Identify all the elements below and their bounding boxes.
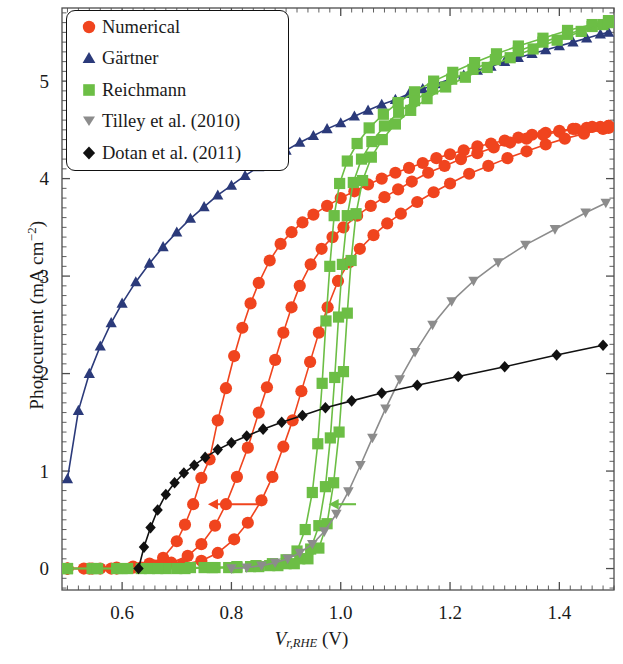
x-axis-label: Vr,RHE (V): [0, 628, 623, 651]
square-marker: [333, 426, 344, 437]
circle-marker: [316, 243, 328, 255]
diamond-marker: [297, 410, 307, 422]
figure-photocurrent-vs-voltage: 0.60.81.01.21.4012345 Photocurrent (mA c…: [0, 0, 623, 664]
diamond-marker: [412, 379, 422, 391]
circle-marker: [275, 238, 287, 250]
square-marker: [338, 366, 349, 377]
triangle-down-marker: [520, 241, 531, 251]
legend-label: Gärtner: [102, 49, 159, 68]
y-tick-label: 0: [40, 558, 50, 579]
square-marker: [390, 118, 401, 129]
square-marker: [603, 17, 614, 28]
square-marker: [350, 208, 361, 219]
triangle-up-marker: [212, 189, 223, 199]
circle-marker: [540, 138, 552, 150]
circle-marker: [504, 136, 516, 148]
circle-marker: [236, 322, 248, 334]
circle-marker: [378, 191, 390, 203]
square-marker: [352, 138, 363, 149]
circle-marker: [209, 520, 221, 532]
triangle-up-marker: [308, 130, 319, 140]
square-marker: [379, 120, 390, 131]
square-marker: [289, 558, 300, 569]
triangle-up-marker: [226, 180, 237, 190]
circle-marker: [228, 350, 240, 362]
square-marker: [179, 563, 190, 574]
circle-marker: [244, 297, 256, 309]
square-marker: [377, 134, 388, 145]
triangle-up-marker: [294, 137, 305, 147]
circle-marker: [187, 498, 199, 510]
square-marker: [393, 97, 404, 108]
triangle-down-marker: [493, 258, 504, 268]
square-marker: [421, 93, 432, 104]
legend-item-tilley: Tilley et al. (2010): [67, 106, 288, 138]
circle-marker: [501, 152, 513, 164]
circle-marker: [277, 441, 289, 453]
circle-marker: [354, 243, 366, 255]
circle-marker: [242, 442, 254, 454]
square-marker: [62, 563, 73, 574]
circle-marker: [389, 167, 401, 179]
square-marker: [357, 175, 368, 186]
circle-marker: [253, 406, 265, 418]
circle-marker: [285, 301, 297, 313]
circle-marker: [422, 167, 434, 179]
diamond-marker: [189, 459, 199, 471]
diamond-marker: [377, 387, 387, 399]
circle-marker: [261, 381, 273, 393]
circle-marker: [520, 133, 532, 145]
triangle-down-marker: [355, 461, 366, 471]
diamond-marker: [152, 504, 162, 516]
y-axis-label: Photocurrent (mA cm−2): [24, 185, 48, 445]
triangle-up-marker: [117, 298, 128, 308]
y-tick-label: 1: [40, 461, 50, 482]
x-tick-label: 1.4: [547, 602, 571, 623]
triangle-up-marker-icon: [76, 48, 102, 68]
circle-marker: [428, 186, 440, 198]
circle-marker: [559, 133, 571, 145]
square-marker: [366, 152, 377, 163]
square-marker: [528, 43, 539, 54]
circle-marker: [367, 229, 379, 241]
triangle-up-marker: [73, 405, 84, 415]
square-marker: [302, 553, 313, 564]
triangle-up-marker: [335, 117, 346, 127]
circle-marker: [455, 153, 467, 165]
square-marker: [346, 255, 357, 266]
circle-marker: [313, 327, 325, 339]
square-marker: [366, 136, 377, 147]
square-marker: [505, 52, 516, 63]
circle-marker: [179, 519, 191, 531]
triangle-down-marker: [380, 404, 391, 414]
circle-marker: [444, 148, 456, 160]
arrow-head: [208, 499, 218, 509]
triangle-down-marker: [550, 225, 561, 235]
triangle-down-marker: [343, 487, 354, 497]
square-marker: [364, 122, 375, 133]
square-marker: [312, 438, 323, 449]
y-tick-label: 5: [40, 71, 50, 92]
triangle-up-marker: [106, 317, 117, 327]
circle-marker: [305, 258, 317, 270]
legend-label: Numerical: [102, 18, 180, 37]
diamond-marker: [258, 423, 268, 435]
circle-marker: [212, 414, 224, 426]
circle-marker: [395, 208, 407, 220]
diamond-marker: [499, 361, 509, 373]
square-marker: [378, 109, 389, 120]
diamond-marker: [213, 444, 223, 456]
square-marker: [300, 524, 311, 535]
triangle-down-marker: [580, 209, 591, 219]
circle-marker: [228, 533, 240, 545]
square-marker: [552, 35, 563, 46]
square-marker: [122, 563, 133, 574]
circle-marker: [195, 538, 207, 550]
legend-label: Dotan et al. (2011): [102, 144, 241, 163]
circle-marker: [578, 128, 590, 140]
legend-label: Tilley et al. (2010): [102, 112, 240, 131]
triangle-down-marker-icon: [76, 111, 102, 131]
circle-marker: [444, 177, 456, 189]
diamond-marker: [551, 349, 561, 361]
triangle-up-marker: [239, 170, 250, 180]
